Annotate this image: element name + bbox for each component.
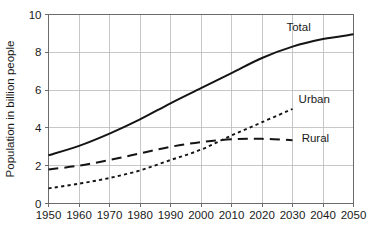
y-tick-label: 8	[35, 46, 41, 58]
series-label-urban: Urban	[299, 93, 330, 105]
chart-background	[0, 0, 373, 231]
y-tick-label: 0	[35, 198, 41, 210]
x-tick-label: 2030	[280, 209, 306, 221]
population-line-chart: 1950196019701980199020002010202020302040…	[0, 0, 373, 231]
x-tick-label: 2010	[219, 209, 245, 221]
x-tick-label: 1970	[97, 209, 123, 221]
chart-container: 1950196019701980199020002010202020302040…	[0, 0, 373, 231]
x-tick-label: 1960	[66, 209, 92, 221]
y-tick-label: 4	[35, 122, 42, 134]
x-tick-label: 2000	[188, 209, 214, 221]
series-label-total: Total	[286, 21, 310, 33]
x-tick-label: 1990	[158, 209, 184, 221]
x-tick-label: 2050	[341, 209, 367, 221]
series-label-rural: Rural	[302, 132, 329, 144]
y-tick-label: 6	[35, 84, 41, 96]
x-tick-label: 2040	[310, 209, 336, 221]
y-tick-label: 10	[29, 9, 42, 21]
x-tick-label: 2020	[249, 209, 275, 221]
y-tick-label: 2	[35, 160, 41, 172]
x-tick-label: 1980	[127, 209, 153, 221]
x-axis-tick-labels: 1950196019701980199020002010202020302040…	[36, 209, 367, 221]
x-tick-label: 1950	[36, 209, 62, 221]
y-axis-title: Population in billion people	[4, 41, 16, 178]
